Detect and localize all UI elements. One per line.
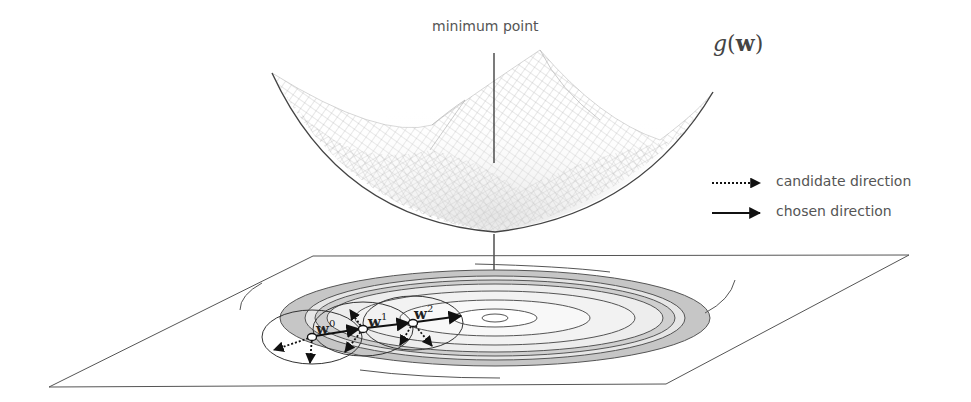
legend-chosen-label: chosen direction bbox=[776, 203, 892, 219]
legend-item-candidate: candidate direction bbox=[768, 173, 911, 189]
minimum-point-label: minimum point bbox=[432, 18, 539, 34]
function-name: g bbox=[713, 31, 727, 56]
gradient-descent-diagram: w0 w1 w2 bbox=[0, 0, 971, 402]
function-paren-close: ) bbox=[755, 31, 764, 56]
legend-item-chosen: chosen direction bbox=[768, 203, 892, 219]
function-label: g(w) bbox=[713, 30, 763, 56]
contour-plot bbox=[240, 264, 735, 378]
function-arg: w bbox=[736, 30, 755, 56]
legend-candidate-label: candidate direction bbox=[776, 173, 911, 189]
cost-surface bbox=[272, 50, 713, 232]
function-paren-open: ( bbox=[727, 31, 736, 56]
